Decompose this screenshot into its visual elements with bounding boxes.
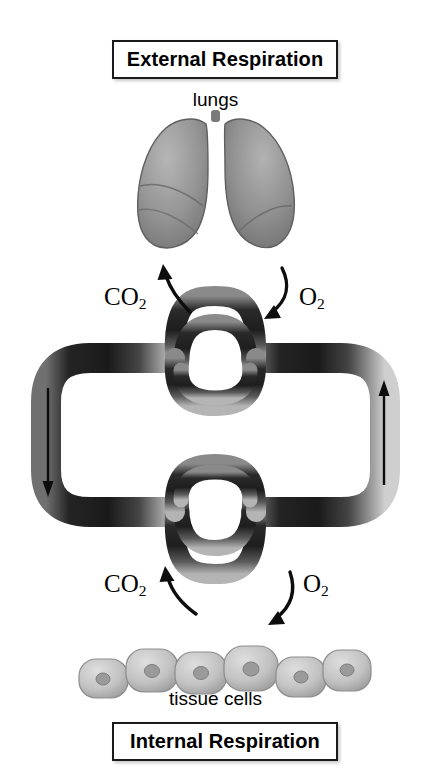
tissue-cell	[126, 649, 178, 692]
co2-symbol-bottom: CO	[104, 570, 139, 597]
co2-label-bottom: CO2	[104, 570, 146, 600]
o2-arrow-bottom	[268, 572, 293, 625]
o2-arrow-top	[264, 268, 287, 319]
pulmonary-capillary-bed	[175, 296, 256, 406]
vessel-loop	[46, 358, 385, 512]
lungs-label: lungs	[0, 89, 431, 111]
lungs-illustration	[138, 110, 295, 248]
o2-subscript-top: 2	[317, 295, 325, 312]
o2-symbol-bottom: O	[303, 570, 321, 597]
o2-subscript-bottom: 2	[321, 582, 329, 599]
circulatory-system-graphic	[0, 0, 431, 782]
co2-symbol-top: CO	[104, 283, 139, 310]
o2-label-top: O2	[299, 283, 325, 313]
tissue-cells-label: tissue cells	[0, 688, 431, 710]
internal-respiration-label: Internal Respiration	[112, 722, 338, 761]
co2-subscript-bottom: 2	[139, 582, 147, 599]
tissue-cell	[224, 646, 278, 691]
tissue-cell	[323, 650, 371, 691]
o2-label-bottom: O2	[303, 570, 329, 600]
systemic-capillary-bed	[175, 464, 256, 574]
co2-subscript-top: 2	[139, 295, 147, 312]
o2-symbol-top: O	[299, 283, 317, 310]
respiration-diagram: External Respiration lungs CO2 O2 CO2 O2…	[0, 0, 431, 782]
external-respiration-label: External Respiration	[112, 40, 338, 79]
co2-label-top: CO2	[104, 283, 146, 313]
